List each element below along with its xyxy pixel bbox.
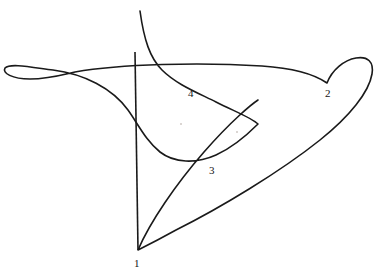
- node-label-2: 2: [325, 88, 331, 99]
- vertical-axis-line: [135, 52, 138, 250]
- paper-speck: [236, 131, 238, 133]
- curve-diagram-figure: 1 2 3 4: [0, 0, 381, 279]
- paper-speck: [180, 123, 182, 125]
- main-curve-path: [4, 11, 372, 250]
- node-label-4: 4: [188, 88, 194, 99]
- node-label-3: 3: [209, 165, 215, 176]
- node-label-1: 1: [134, 258, 140, 269]
- curve-canvas: [0, 0, 381, 279]
